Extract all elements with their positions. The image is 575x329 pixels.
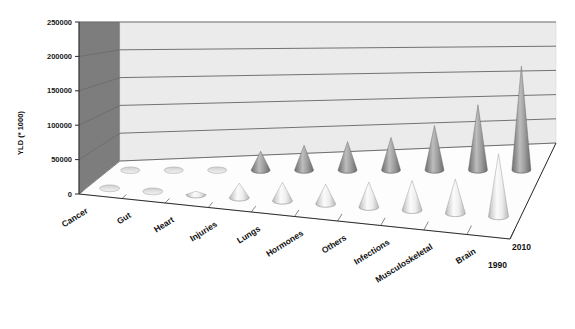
- y-tick-label: 50000: [51, 155, 72, 164]
- y-tick-label: 250000: [47, 18, 72, 27]
- y-axis: 050000100000150000200000250000 YLD (* 10…: [16, 18, 79, 199]
- cone-gut-1990: [143, 188, 163, 195]
- category-label-hormones: Hormones: [264, 228, 305, 259]
- cone-gut-2010: [164, 167, 183, 173]
- cone-chart-3d: 050000100000150000200000250000 YLD (* 10…: [0, 0, 575, 329]
- category-label-heart: Heart: [152, 214, 176, 234]
- cone-heart-2010: [208, 167, 227, 173]
- y-tick-label: 100000: [47, 121, 72, 130]
- y-axis-title: YLD (* 1000): [16, 111, 25, 155]
- cone-base: [143, 188, 163, 195]
- category-label-brain: Brain: [454, 246, 478, 266]
- category-label-gut: Gut: [115, 210, 133, 226]
- category-label-infections: Infections: [352, 237, 392, 267]
- series-label-1990: 1990: [488, 260, 507, 270]
- series-label-2010: 2010: [512, 242, 531, 252]
- cone-base: [164, 167, 183, 173]
- back-wall: [120, 22, 556, 161]
- cone-cancer-2010: [121, 167, 140, 173]
- category-label-injuries: Injuries: [188, 219, 219, 244]
- cone-base: [121, 167, 140, 173]
- cone-base: [208, 167, 227, 173]
- category-label-cancer: Cancer: [60, 205, 90, 229]
- category-label-lungs: Lungs: [235, 223, 262, 245]
- cone-base: [100, 185, 120, 192]
- plot-walls: [79, 22, 556, 239]
- category-label-others: Others: [320, 232, 349, 255]
- y-tick-label: 0: [68, 190, 72, 199]
- y-tick-label: 150000: [47, 86, 72, 95]
- chart-canvas: 050000100000150000200000250000 YLD (* 10…: [0, 0, 575, 329]
- y-tick-label: 200000: [47, 52, 72, 61]
- cone-cancer-1990: [100, 185, 120, 192]
- series-labels: 20101990: [488, 242, 531, 270]
